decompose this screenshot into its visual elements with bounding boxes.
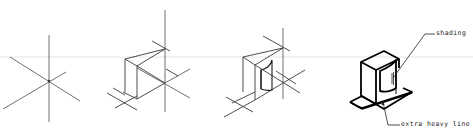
extra-heavy-line-label: extra heavy line bbox=[401, 120, 470, 128]
shading-label: shading bbox=[436, 29, 466, 37]
step-3-details bbox=[224, 28, 305, 117]
step-4-finished-object bbox=[350, 51, 412, 109]
step-1-axes bbox=[3, 35, 80, 122]
step-2-construction-box bbox=[107, 10, 190, 112]
drawing-canvas bbox=[0, 0, 473, 136]
shading-leader-line bbox=[393, 34, 435, 78]
isometric-drawing-figure: shading extra heavy line bbox=[0, 0, 473, 136]
annotation-leaders bbox=[382, 34, 436, 125]
